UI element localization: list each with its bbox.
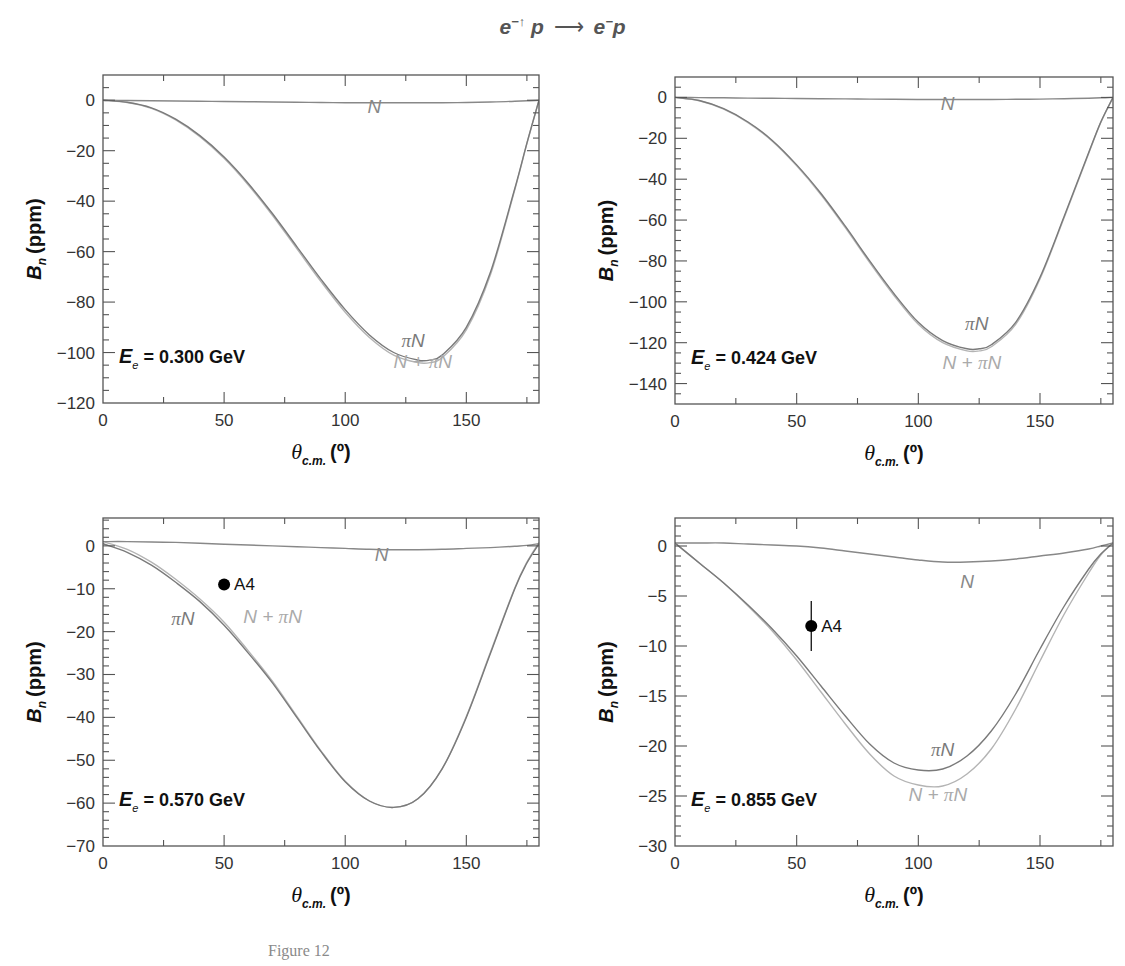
energy-label: Ee= 0.570 GeV <box>119 788 245 814</box>
y-tick-label: −100 <box>57 344 95 363</box>
x-tick-label: 100 <box>331 854 359 873</box>
curve-label: N <box>375 544 389 565</box>
y-tick-label: −20 <box>638 737 667 756</box>
x-tick-label: 150 <box>1026 412 1054 431</box>
data-point-label: A4 <box>234 575 255 594</box>
curve--n <box>675 543 1113 771</box>
y-tick-label: −120 <box>57 394 95 413</box>
y-tick-label: −70 <box>66 837 95 856</box>
x-tick-label: 100 <box>904 854 932 873</box>
x-tick-label: 100 <box>331 411 359 430</box>
curve-label: πN <box>965 313 989 334</box>
x-tick-label: 0 <box>98 411 107 430</box>
data-point-a4 <box>218 578 230 590</box>
curve-n-n <box>675 543 1113 787</box>
y-tick-label: −20 <box>66 142 95 161</box>
chart-panel-bottom-right: 0501001500−5−10−15−20−25−30θc.m.(º)Bn(pp… <box>595 518 1113 911</box>
y-tick-label: −5 <box>648 587 667 606</box>
y-tick-label: −80 <box>66 293 95 312</box>
curves <box>103 100 539 363</box>
figure-caption: Figure 12 <box>268 942 330 960</box>
curves <box>675 543 1113 787</box>
x-tick-label: 50 <box>787 412 806 431</box>
y-tick-label: −60 <box>638 211 667 230</box>
x-tick-label: 150 <box>452 411 480 430</box>
chart-panel-top-right: 0501001500−20−40−60−80−100−120−140θc.m.(… <box>595 77 1113 469</box>
curves <box>103 542 539 808</box>
curve-n <box>675 543 1113 562</box>
y-tick-label: −80 <box>638 252 667 271</box>
data-point-label: A4 <box>821 617 842 636</box>
data-point-a4 <box>805 620 817 632</box>
curve-n-n <box>103 100 539 363</box>
energy-label: Ee= 0.424 GeV <box>691 346 817 372</box>
y-tick-label: 0 <box>658 537 667 556</box>
y-axis-label: Bn(ppm) <box>23 641 49 722</box>
y-tick-label: −10 <box>638 637 667 656</box>
y-tick-label: −100 <box>629 293 667 312</box>
y-axis-label: Bn(ppm) <box>595 641 621 722</box>
curve-label: πN <box>931 739 955 760</box>
y-tick-label: 0 <box>658 88 667 107</box>
y-axis-label: Bn(ppm) <box>595 200 621 281</box>
curve-n-n <box>103 542 539 808</box>
y-tick-label: −40 <box>638 170 667 189</box>
x-axis-label: θc.m.(º) <box>291 439 350 468</box>
y-tick-label: −15 <box>638 687 667 706</box>
curve-n <box>103 542 539 550</box>
curve-label: N <box>367 96 381 117</box>
curve--n <box>103 100 539 361</box>
x-tick-label: 50 <box>215 411 234 430</box>
y-tick-label: −40 <box>66 192 95 211</box>
x-tick-label: 100 <box>904 412 932 431</box>
x-tick-label: 50 <box>215 854 234 873</box>
energy-label: Ee= 0.300 GeV <box>119 345 245 371</box>
x-tick-label: 0 <box>670 412 679 431</box>
y-tick-label: −25 <box>638 787 667 806</box>
curve-label: N + πN <box>908 784 967 805</box>
curves <box>675 97 1113 351</box>
curve-label: πN <box>401 330 425 351</box>
y-tick-label: −40 <box>66 708 95 727</box>
y-tick-label: −60 <box>66 243 95 262</box>
curve-label: N + πN <box>243 606 302 627</box>
y-tick-label: 0 <box>86 537 95 556</box>
curve-n-n <box>675 97 1113 351</box>
curve-label: N + πN <box>393 351 452 372</box>
y-tick-label: −60 <box>66 794 95 813</box>
y-axis-label: Bn(ppm) <box>23 198 49 279</box>
x-axis-label: θc.m.(º) <box>291 882 350 911</box>
y-tick-label: −10 <box>66 580 95 599</box>
x-axis-label: θc.m.(º) <box>864 440 923 469</box>
y-tick-label: −20 <box>638 129 667 148</box>
curve-label: N + πN <box>943 352 1002 373</box>
x-tick-label: 0 <box>670 854 679 873</box>
curve--n <box>675 97 1113 349</box>
x-tick-label: 150 <box>452 854 480 873</box>
y-tick-label: −120 <box>629 334 667 353</box>
x-axis-label: θc.m.(º) <box>864 882 923 911</box>
curve--n <box>103 544 539 808</box>
curve-label: πN <box>171 608 195 629</box>
y-tick-label: −30 <box>638 837 667 856</box>
y-tick-label: −20 <box>66 623 95 642</box>
y-tick-label: −30 <box>66 665 95 684</box>
curve-n <box>675 97 1113 99</box>
curve-n <box>103 100 539 103</box>
plots-canvas: 0501001500−20−40−60−80−100−120θc.m.(º)Bn… <box>0 0 1125 966</box>
curve-label: N <box>941 93 955 114</box>
chart-panel-bottom-left: 0501001500−10−20−30−40−50−60−70θc.m.(º)B… <box>23 518 539 911</box>
x-tick-label: 150 <box>1026 854 1054 873</box>
chart-panel-top-left: 0501001500−20−40−60−80−100−120θc.m.(º)Bn… <box>23 75 539 468</box>
y-tick-label: 0 <box>86 91 95 110</box>
curve-label: N <box>960 571 974 592</box>
y-tick-label: −50 <box>66 751 95 770</box>
y-tick-label: −140 <box>629 375 667 394</box>
x-tick-label: 50 <box>787 854 806 873</box>
x-tick-label: 0 <box>98 854 107 873</box>
energy-label: Ee= 0.855 GeV <box>691 788 817 814</box>
